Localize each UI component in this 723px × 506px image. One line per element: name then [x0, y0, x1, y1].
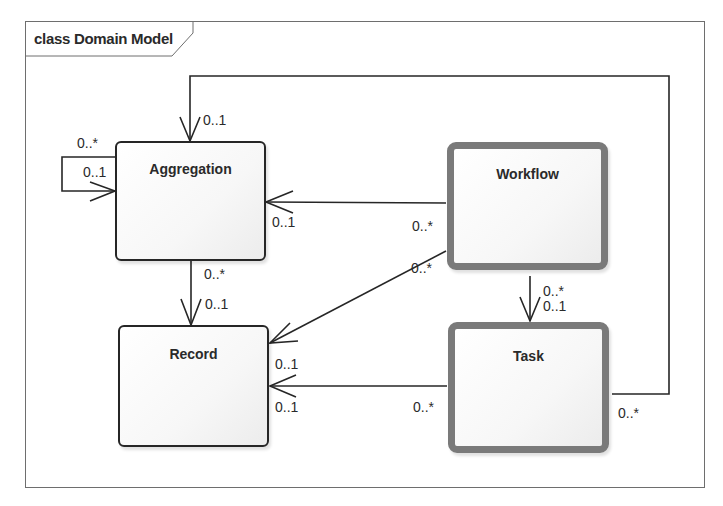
class-task[interactable]: Task	[448, 322, 609, 453]
class-name: Workflow	[454, 166, 601, 182]
class-aggregation[interactable]: Aggregation	[115, 141, 266, 261]
class-record[interactable]: Record	[118, 325, 269, 447]
association-workflow-task[interactable]	[520, 276, 540, 321]
association-workflow-aggregation[interactable]	[266, 191, 446, 213]
multiplicity-label: 0..1	[275, 356, 298, 372]
class-name: Record	[120, 346, 267, 362]
multiplicity-label: 0..1	[203, 112, 226, 128]
multiplicity-label: 0..1	[275, 399, 298, 415]
multiplicity-label: 0..*	[412, 218, 433, 234]
multiplicity-label: 0..1	[83, 164, 106, 180]
class-name: Aggregation	[117, 161, 264, 177]
association-aggregation-record[interactable]	[181, 261, 201, 325]
multiplicity-label: 0..1	[272, 214, 295, 230]
multiplicity-label: 0..*	[543, 283, 564, 299]
multiplicity-label: 0..*	[411, 260, 432, 276]
multiplicity-label: 0..*	[204, 266, 225, 282]
multiplicity-label: 0..*	[618, 405, 639, 421]
connectors-layer	[0, 0, 723, 506]
multiplicity-label: 0..1	[543, 298, 566, 314]
frame-title: class Domain Model	[34, 30, 173, 47]
multiplicity-label: 0..*	[77, 135, 98, 151]
class-workflow[interactable]: Workflow	[447, 142, 608, 270]
multiplicity-label: 0..*	[413, 399, 434, 415]
association-task-record[interactable]	[270, 375, 447, 397]
class-name: Task	[455, 348, 602, 364]
multiplicity-label: 0..1	[205, 296, 228, 312]
